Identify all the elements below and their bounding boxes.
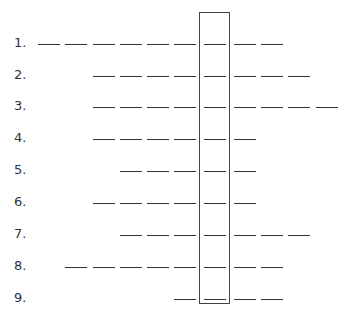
letter-blank[interactable] <box>147 203 169 204</box>
letter-blank[interactable] <box>288 76 310 77</box>
letter-blank[interactable] <box>147 267 169 268</box>
letter-blank[interactable] <box>234 139 256 140</box>
highlighted-letter-blank[interactable] <box>204 235 226 236</box>
puzzle-row: 2. <box>0 67 354 87</box>
letter-blank[interactable] <box>288 107 310 108</box>
puzzle-row: 7. <box>0 226 354 246</box>
row-number: 9. <box>14 290 26 306</box>
letter-blank[interactable] <box>174 44 196 45</box>
highlighted-letter-blank[interactable] <box>204 44 226 45</box>
highlighted-letter-blank[interactable] <box>204 267 226 268</box>
highlighted-letter-blank[interactable] <box>204 76 226 77</box>
letter-blank[interactable] <box>174 299 196 300</box>
highlighted-letter-blank[interactable] <box>204 203 226 204</box>
puzzle-row: 1. <box>0 35 354 55</box>
highlighted-letter-blank[interactable] <box>204 139 226 140</box>
letter-blank[interactable] <box>261 107 283 108</box>
highlighted-letter-blank[interactable] <box>204 107 226 108</box>
letter-blank[interactable] <box>147 235 169 236</box>
letter-blank[interactable] <box>174 171 196 172</box>
highlighted-letter-blank[interactable] <box>204 299 226 300</box>
letter-blank[interactable] <box>120 267 142 268</box>
letter-blank[interactable] <box>174 107 196 108</box>
crossword-puzzle: 1.2.3.4.5.6.7.8.9. <box>0 0 354 321</box>
letter-blank[interactable] <box>174 76 196 77</box>
letter-blank[interactable] <box>147 171 169 172</box>
letter-blank[interactable] <box>65 267 87 268</box>
letter-blank[interactable] <box>147 76 169 77</box>
letter-blank[interactable] <box>147 139 169 140</box>
letter-blank[interactable] <box>234 299 256 300</box>
row-number: 2. <box>14 67 26 83</box>
row-number: 7. <box>14 226 26 242</box>
puzzle-row: 3. <box>0 98 354 118</box>
row-number: 1. <box>14 35 26 51</box>
letter-blank[interactable] <box>174 267 196 268</box>
letter-blank[interactable] <box>316 107 338 108</box>
letter-blank[interactable] <box>120 76 142 77</box>
letter-blank[interactable] <box>288 235 310 236</box>
letter-blank[interactable] <box>93 107 115 108</box>
letter-blank[interactable] <box>174 235 196 236</box>
letter-blank[interactable] <box>234 171 256 172</box>
letter-blank[interactable] <box>234 267 256 268</box>
letter-blank[interactable] <box>38 44 60 45</box>
letter-blank[interactable] <box>234 44 256 45</box>
letter-blank[interactable] <box>234 203 256 204</box>
letter-blank[interactable] <box>174 139 196 140</box>
letter-blank[interactable] <box>234 107 256 108</box>
puzzle-row: 4. <box>0 130 354 150</box>
letter-blank[interactable] <box>120 139 142 140</box>
letter-blank[interactable] <box>261 235 283 236</box>
letter-blank[interactable] <box>234 235 256 236</box>
letter-blank[interactable] <box>234 76 256 77</box>
letter-blank[interactable] <box>65 44 87 45</box>
letter-blank[interactable] <box>93 139 115 140</box>
letter-blank[interactable] <box>120 203 142 204</box>
letter-blank[interactable] <box>93 267 115 268</box>
row-number: 5. <box>14 162 26 178</box>
letter-blank[interactable] <box>93 76 115 77</box>
letter-blank[interactable] <box>120 107 142 108</box>
letter-blank[interactable] <box>93 44 115 45</box>
letter-blank[interactable] <box>261 299 283 300</box>
letter-blank[interactable] <box>147 44 169 45</box>
row-number: 8. <box>14 258 26 274</box>
letter-blank[interactable] <box>261 267 283 268</box>
letter-blank[interactable] <box>93 203 115 204</box>
letter-blank[interactable] <box>261 44 283 45</box>
row-number: 4. <box>14 130 26 146</box>
puzzle-row: 6. <box>0 194 354 214</box>
puzzle-row: 8. <box>0 258 354 278</box>
row-number: 3. <box>14 98 26 114</box>
puzzle-row: 5. <box>0 162 354 182</box>
letter-blank[interactable] <box>120 235 142 236</box>
letter-blank[interactable] <box>120 171 142 172</box>
letter-blank[interactable] <box>120 44 142 45</box>
letter-blank[interactable] <box>147 107 169 108</box>
letter-blank[interactable] <box>174 203 196 204</box>
letter-blank[interactable] <box>261 76 283 77</box>
puzzle-row: 9. <box>0 290 354 310</box>
highlighted-letter-blank[interactable] <box>204 171 226 172</box>
row-number: 6. <box>14 194 26 210</box>
